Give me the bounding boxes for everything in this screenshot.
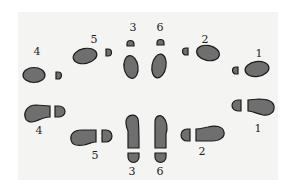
footprints-art <box>0 0 296 188</box>
top-footprint-6 <box>150 40 168 80</box>
top-footprint-3 <box>122 41 139 80</box>
bottom-step-label-3: 3 <box>126 166 138 177</box>
top-step-label-4: 4 <box>31 46 43 57</box>
top-step-label-2: 2 <box>199 34 211 45</box>
top-footprint-1 <box>233 60 270 78</box>
bottom-step-label-1: 1 <box>252 123 264 134</box>
bottom-step-label-6: 6 <box>154 166 166 177</box>
top-step-label-3: 3 <box>127 22 139 33</box>
top-step-label-1: 1 <box>253 48 265 59</box>
bottom-footprint-6 <box>155 116 167 163</box>
bottom-footprint-1 <box>232 99 274 115</box>
bottom-footprint-5 <box>71 130 112 145</box>
top-footprint-2 <box>183 43 221 62</box>
top-step-label-6: 6 <box>154 22 166 33</box>
bottom-step-label-4: 4 <box>33 125 45 136</box>
bottom-footprint-2 <box>181 126 224 141</box>
bottom-step-label-5: 5 <box>89 150 101 161</box>
top-footprint-5 <box>72 46 112 66</box>
bottom-footprint-4 <box>25 105 65 122</box>
top-footprint-4 <box>23 68 62 83</box>
bottom-step-label-2: 2 <box>196 146 208 157</box>
bottom-footprint-3 <box>126 115 139 162</box>
dance-steps-diagram: 4 5 3 6 2 1 4 5 3 6 2 1 <box>0 0 296 188</box>
top-step-label-5: 5 <box>88 34 100 45</box>
